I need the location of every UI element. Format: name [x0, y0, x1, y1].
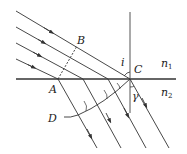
label-A: A — [48, 83, 57, 96]
label-C: C — [134, 63, 143, 76]
label-gamma: γ — [132, 90, 139, 103]
refracted-rays — [58, 79, 169, 148]
incident-rays — [16, 11, 130, 79]
label-n2: n2 — [161, 86, 173, 100]
label-i: i — [121, 56, 125, 69]
label-D: D — [47, 112, 57, 125]
label-B: B — [76, 34, 85, 47]
refraction-diagram: B A C D i γ n1 n2 — [0, 0, 187, 154]
angle-i-arc — [124, 72, 130, 76]
label-n1: n1 — [161, 57, 173, 71]
angle-gamma-arc — [130, 86, 134, 87]
wavefront-arc — [64, 79, 130, 117]
